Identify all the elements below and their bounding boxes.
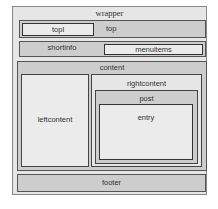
entry-box: entry	[99, 104, 193, 160]
leftcontent-box: leftcontent	[21, 74, 89, 167]
content-label: content	[18, 63, 206, 72]
topl-label: topl	[23, 25, 93, 34]
post-label: post	[96, 94, 197, 103]
rightcontent-label: rightcontent	[92, 79, 201, 88]
shortinfo-label: shortinfo	[20, 43, 104, 52]
wrapper-label: wrapper	[13, 9, 206, 18]
menuitems-box: menuitems	[104, 44, 203, 55]
footer-label: footer	[18, 178, 205, 187]
top-label: top	[106, 24, 116, 33]
leftcontent-label: leftcontent	[22, 115, 88, 124]
topl-box: topl	[22, 23, 94, 36]
entry-label: entry	[100, 113, 192, 122]
menuitems-label: menuitems	[105, 45, 202, 54]
footer-box: footer	[17, 174, 206, 192]
